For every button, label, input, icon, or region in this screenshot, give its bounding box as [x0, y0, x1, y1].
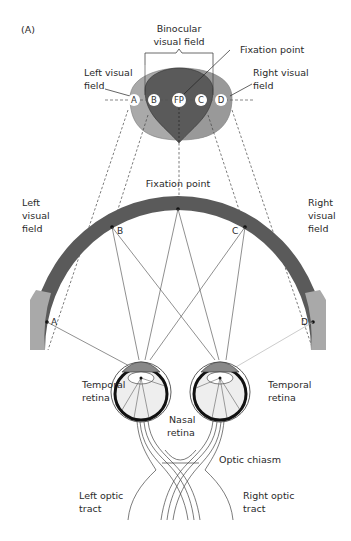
left-field-label-1: Left: [22, 197, 40, 208]
point-a-arc: A: [51, 317, 58, 327]
left-field-label-2: visual: [22, 210, 50, 221]
fixation-point-label-arc: Fixation point: [146, 178, 211, 189]
left-eye: [111, 362, 171, 422]
left-visual-field-label-2: field: [84, 80, 105, 91]
left-visual-field-label-1: Left visual: [84, 67, 133, 78]
optic-chiasm-label: Optic chiasm: [219, 454, 281, 465]
binocular-label-2: visual field: [153, 36, 204, 47]
point-a-top: A: [128, 94, 140, 106]
fixation-point-label-top: Fixation point: [240, 44, 305, 55]
left-optic-tract-2: tract: [79, 503, 102, 514]
right-optic-tract-1: Right optic: [243, 490, 294, 501]
right-visual-field-label-2: field: [253, 80, 274, 91]
binocular-label-1: Binocular: [157, 23, 202, 34]
right-eye: [190, 362, 250, 422]
point-c-arc: C: [232, 226, 238, 236]
right-field-label-1: Right: [308, 197, 333, 208]
point-d-top: D: [215, 94, 227, 106]
visual-pathway-figure: (A) Binocular visual field Fixation poin…: [0, 0, 351, 541]
right-field-label-2: visual: [308, 210, 336, 221]
svg-text:B: B: [151, 95, 157, 105]
svg-text:A: A: [131, 95, 137, 105]
temporal-retina-right-2: retina: [268, 392, 296, 403]
svg-text:D: D: [218, 95, 225, 105]
temporal-retina-right-1: Temporal: [267, 379, 312, 390]
right-visual-field-label-1: Right visual: [253, 67, 309, 78]
top-visual-field-diagram: Binocular visual field Fixation point Le…: [84, 23, 309, 143]
right-field-label-3: field: [308, 223, 329, 234]
visual-field-arc: Fixation point Left visual field Right v…: [22, 178, 336, 350]
temporal-retina-left-1: Temporal: [81, 379, 126, 390]
svg-text:FP: FP: [174, 95, 184, 105]
point-fp-top: FP: [172, 93, 186, 107]
svg-text:C: C: [198, 95, 204, 105]
left-optic-tract-1: Left optic: [79, 490, 123, 501]
point-c-top: C: [195, 94, 207, 106]
binocular-bracket: [145, 49, 213, 65]
left-field-label-3: field: [22, 223, 43, 234]
right-optic-tract-2: tract: [243, 503, 266, 514]
point-b-top: B: [148, 94, 160, 106]
nasal-retina-2: retina: [167, 427, 195, 438]
nasal-retina-1: Nasal: [169, 414, 195, 425]
panel-label: (A): [21, 24, 35, 35]
temporal-retina-left-2: retina: [82, 392, 110, 403]
